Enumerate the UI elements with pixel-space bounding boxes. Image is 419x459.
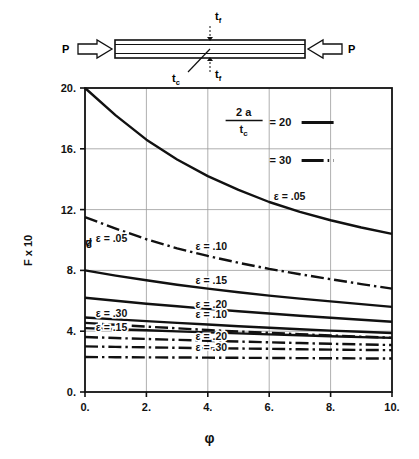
x-tick-label: 6. (265, 401, 274, 413)
chart-legend: 2 atc= 20= 30 (226, 106, 334, 166)
load-label-right: P (348, 43, 355, 55)
svg-text:tc: tc (240, 123, 249, 138)
y-tick-label: 8. (67, 264, 76, 276)
svg-text:ε = .05: ε = .05 (274, 190, 306, 202)
x-tick-label: 2. (142, 401, 151, 413)
load-arrow-left (78, 40, 112, 58)
x-tick-label: 4. (203, 401, 212, 413)
data-curves (85, 88, 392, 359)
specimen-diagram: tf tf tc P P (0, 0, 419, 88)
svg-text:ε = .05: ε = .05 (96, 232, 128, 244)
x-axis-label: φ (0, 430, 419, 446)
legend-entry-label: = 20 (270, 116, 292, 128)
svg-text:ε = .15: ε = .15 (96, 321, 128, 333)
svg-text:ε = .10: ε = .10 (196, 240, 228, 252)
y-axis-label-text: Fp x 102 (22, 235, 34, 266)
svg-text:ε = .30: ε = .30 (196, 341, 228, 353)
y-tick-label: 4. (67, 325, 76, 337)
plot-frame (85, 88, 392, 392)
y-tick-label: 12. (61, 204, 76, 216)
load-label-left: P (62, 43, 69, 55)
x-tick-label: 8. (326, 401, 335, 413)
tf-top-label: tf (215, 10, 222, 25)
svg-text:ε = .10: ε = .10 (196, 308, 228, 320)
gridlines (85, 88, 392, 392)
y-tick-label: 20. (61, 82, 76, 94)
y-tick-label: 0. (67, 386, 76, 398)
tick-labels: 0.2.4.6.8.10.0.4.8.12.16.20. (61, 82, 400, 413)
chart-plot: ε = .05ε = .05ε = .05ε = .05ε = .10ε = .… (0, 82, 419, 422)
svg-text:ε = .15: ε = .15 (196, 274, 228, 286)
tf-bottom-label: tf (215, 68, 222, 83)
svg-text:ε = .30: ε = .30 (96, 307, 128, 319)
svg-text:2 a: 2 a (236, 106, 252, 118)
y-axis-label: Fp x 102 (6, 196, 24, 266)
x-tick-label: 0. (80, 401, 89, 413)
x-tick-label: 10. (384, 401, 399, 413)
y-tick-label: 16. (61, 143, 76, 155)
legend-entry-label: = 30 (270, 154, 292, 166)
load-arrow-right (308, 40, 342, 58)
